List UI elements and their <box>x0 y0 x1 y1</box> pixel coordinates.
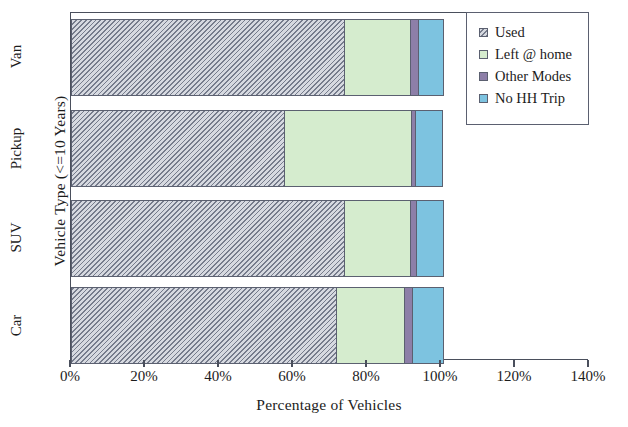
bar-segment <box>284 110 411 187</box>
x-axis-tick-label: 140% <box>558 368 618 385</box>
bar-segment <box>71 19 344 96</box>
x-axis-tick-mark <box>291 360 293 367</box>
bar-segment <box>412 287 444 364</box>
bar-row <box>71 19 444 96</box>
x-axis-tick-label: 80% <box>336 368 396 385</box>
legend-swatch-icon <box>479 72 488 81</box>
legend: UsedLeft @ homeOther ModesNo HH Trip <box>466 12 589 125</box>
bar-row <box>71 110 443 187</box>
x-axis-tick-mark <box>217 360 219 367</box>
legend-item: No HH Trip <box>479 87 588 109</box>
x-axis-title: Percentage of Vehicles <box>70 396 588 414</box>
stacked-bar-chart: Vehicle Type (<=10 Years) Van Pickup SUV… <box>0 0 628 427</box>
x-axis-tick-mark <box>143 360 145 367</box>
x-axis-tick-label: 40% <box>188 368 248 385</box>
legend-item-label: Left @ home <box>495 47 572 62</box>
x-axis-tick-label: 0% <box>40 368 100 385</box>
bar-row <box>71 200 444 277</box>
legend-item: Other Modes <box>479 65 588 87</box>
bar-segment <box>71 287 336 364</box>
x-axis-tick-label: 20% <box>114 368 174 385</box>
bar-segment <box>415 110 443 187</box>
x-axis-tick-mark <box>513 360 515 367</box>
y-axis-category-label-pickup: Pickup <box>8 104 25 194</box>
y-axis-category-label-car: Car <box>8 281 25 371</box>
legend-swatch-icon <box>479 28 488 37</box>
x-axis-tick-mark <box>587 360 589 367</box>
x-axis-tick-mark <box>365 360 367 367</box>
legend-item-label: Other Modes <box>495 69 571 84</box>
x-axis-tick-label: 100% <box>410 368 470 385</box>
legend-item-label: Used <box>495 25 525 40</box>
bar-segment <box>418 19 444 96</box>
bar-row <box>71 287 444 364</box>
x-axis-tick-mark <box>439 360 441 367</box>
legend-swatch-icon <box>479 50 488 59</box>
y-axis-title: Vehicle Type (<=10 Years) <box>51 11 69 351</box>
legend-swatch-icon <box>479 94 488 103</box>
bar-segment <box>416 200 444 277</box>
legend-item: Left @ home <box>479 43 588 65</box>
legend-item-label: No HH Trip <box>495 91 565 106</box>
legend-item: Used <box>479 21 588 43</box>
bar-segment <box>71 110 284 187</box>
y-axis-category-label-suv: SUV <box>8 193 25 283</box>
bar-segment <box>410 19 418 96</box>
x-axis-tick-label: 120% <box>484 368 544 385</box>
x-axis-tick-label: 60% <box>262 368 322 385</box>
bar-segment <box>336 287 404 364</box>
bar-segment <box>71 200 344 277</box>
bar-segment <box>404 287 412 364</box>
bar-segment <box>344 200 410 277</box>
x-axis-tick-mark <box>69 360 71 367</box>
bar-segment <box>344 19 410 96</box>
y-axis-category-label-van: Van <box>8 12 25 102</box>
